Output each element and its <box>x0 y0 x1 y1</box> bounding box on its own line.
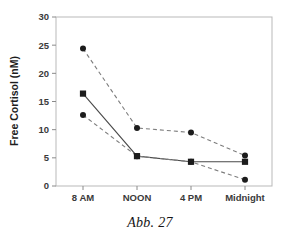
series-line-solid-square <box>83 94 245 162</box>
y-tick-label: 0 <box>44 180 49 191</box>
y-tick-label: 25 <box>38 40 49 51</box>
series-lines <box>83 49 245 180</box>
figure-caption: Abb. 27 <box>0 215 300 231</box>
data-point-circle <box>80 46 86 52</box>
data-point-circle <box>242 153 248 159</box>
data-point-circle <box>134 125 140 131</box>
data-point-square <box>80 91 86 97</box>
x-category-label: 4 PM <box>180 192 202 203</box>
data-point-circle <box>80 112 86 118</box>
series-line-upper-dashed-circle <box>83 49 245 156</box>
y-tick-label: 5 <box>44 152 50 163</box>
y-tick-label: 20 <box>38 68 49 79</box>
y-tick-label: 10 <box>38 124 49 135</box>
data-point-circle <box>188 159 194 165</box>
x-axis-category-labels: 8 AMNOON4 PMMidnight <box>72 192 266 203</box>
y-tick-label: 30 <box>38 11 49 22</box>
x-category-label: 8 AM <box>72 192 94 203</box>
y-axis-tick-labels: 051015202530 <box>38 11 49 191</box>
data-point-square <box>242 159 248 165</box>
chart-page: 051015202530 8 AMNOON4 PMMidnight Free C… <box>0 0 300 235</box>
data-point-circle <box>134 153 140 159</box>
x-category-label: Midnight <box>225 192 265 203</box>
cortisol-line-chart: 051015202530 8 AMNOON4 PMMidnight Free C… <box>0 0 300 235</box>
y-axis-title: Free Cortisol (nM) <box>8 56 20 146</box>
plot-frame <box>56 17 272 186</box>
x-category-label: NOON <box>123 192 152 203</box>
data-point-circle <box>242 177 248 183</box>
x-axis-ticks <box>83 186 245 190</box>
y-tick-label: 15 <box>38 96 49 107</box>
series-line-lower-dashed-circle <box>83 115 245 180</box>
y-axis-ticks <box>52 17 56 186</box>
data-point-circle <box>188 129 194 135</box>
